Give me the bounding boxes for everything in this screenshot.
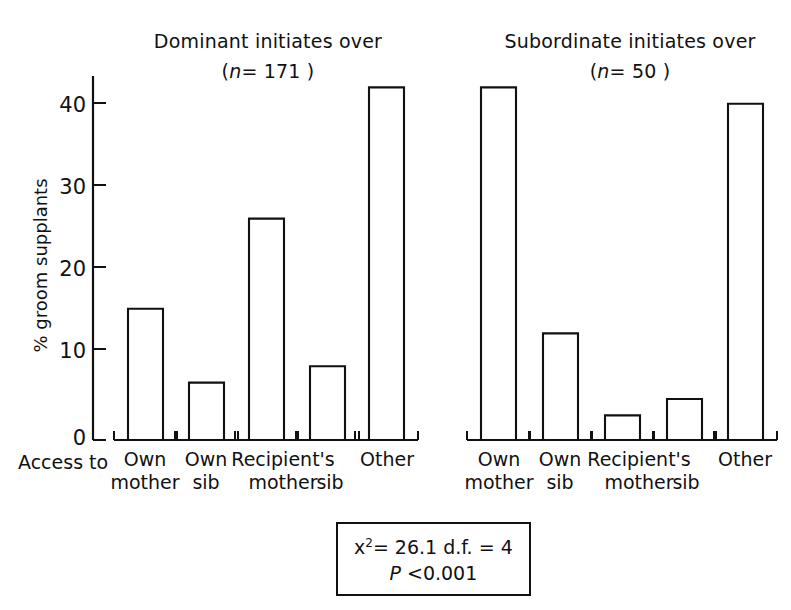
- y-axis: [93, 76, 106, 440]
- chi-value: = 26.1 d.f. = 4: [373, 536, 513, 558]
- bar-left-1: [175, 383, 238, 440]
- cat-label-right-1-bottom: sib: [546, 471, 573, 493]
- bar-right-2: [591, 415, 654, 440]
- chi-symbol: x: [354, 536, 365, 558]
- plot-area: [0, 0, 791, 610]
- p-symbol: P: [389, 562, 400, 584]
- bar-outline: [543, 333, 578, 440]
- bar-outline: [249, 219, 284, 440]
- bar-outline: [728, 104, 763, 440]
- bar-outline: [605, 415, 640, 440]
- bar-chart-figure: Dominant initiates over (n= 171 ) Subord…: [0, 0, 791, 610]
- bar-left-2: [235, 219, 298, 440]
- bar-outline: [667, 399, 702, 440]
- bar-right-4: [714, 104, 777, 440]
- bar-outline: [189, 383, 224, 440]
- bars-layer: [114, 87, 777, 440]
- cat-label-left-3-bottom: sib: [316, 471, 343, 493]
- statistics-box: x2= 26.1 d.f. = 4 P <0.001: [336, 522, 531, 596]
- chi-exponent: 2: [365, 536, 373, 550]
- cat-label-left-1-bottom: sib: [192, 471, 219, 493]
- bar-left-0: [114, 309, 177, 440]
- stats-line-1: x2= 26.1 d.f. = 4: [354, 536, 513, 558]
- bar-outline: [310, 366, 345, 440]
- cat-label-right-4: Other: [700, 448, 790, 471]
- cat-label-right-3-bottom: sib: [672, 471, 699, 493]
- cat-label-left-0-top: Own: [124, 448, 167, 470]
- cat-label-right-0-top: Own: [478, 448, 521, 470]
- bar-outline: [369, 87, 404, 440]
- bar-right-0: [467, 87, 530, 440]
- bar-left-4: [355, 87, 418, 440]
- stats-line-2: P <0.001: [354, 560, 513, 586]
- bar-right-3: [653, 399, 716, 440]
- bar-outline: [128, 309, 163, 440]
- p-value: <0.001: [401, 562, 477, 584]
- cat-label-right-4-top: Other: [718, 448, 772, 470]
- cat-label-left-4-top: Other: [360, 448, 414, 470]
- bar-outline: [481, 87, 516, 440]
- x-axis-prefix-label: Access to: [18, 451, 108, 473]
- bar-left-3: [296, 366, 359, 440]
- cat-label-left-4: Other: [342, 448, 432, 471]
- bar-right-1: [529, 333, 592, 440]
